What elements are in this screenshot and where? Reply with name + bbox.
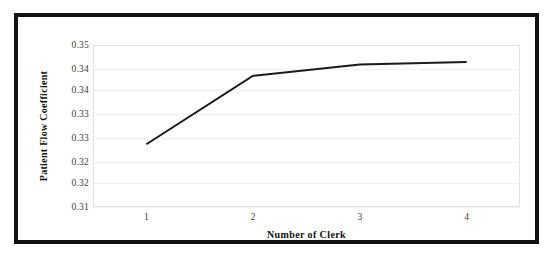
line-chart: Patient Flow Coefficient 0.350.340.340.3…	[21, 20, 540, 245]
y-axis-tick-labels: 0.350.340.340.330.330.320.320.31	[51, 45, 89, 207]
y-axis-tick-label: 0.33	[51, 133, 89, 143]
x-axis-title: Number of Clerk	[93, 229, 520, 240]
y-axis-title: Patient Flow Coefficient	[38, 71, 49, 182]
y-axis-tick-label: 0.31	[51, 202, 89, 212]
y-axis-title-container: Patient Flow Coefficient	[35, 45, 51, 207]
data-line-svg	[93, 45, 520, 207]
x-axis-tick-label: 4	[452, 212, 482, 222]
series-line-patient-flow-coefficient	[146, 62, 466, 144]
y-axis-tick-label: 0.34	[51, 85, 89, 95]
figure-inner-canvas: Patient Flow Coefficient 0.350.340.340.3…	[21, 20, 532, 237]
x-axis-tick-label: 2	[238, 212, 268, 222]
x-axis-tick-labels: 1234	[93, 212, 520, 228]
figure-root: Patient Flow Coefficient 0.350.340.340.3…	[0, 0, 553, 264]
y-axis-tick-label: 0.33	[51, 109, 89, 119]
x-axis-tick-label: 1	[131, 212, 161, 222]
y-axis-tick-label: 0.34	[51, 64, 89, 74]
y-axis-tick-label: 0.35	[51, 40, 89, 50]
plot-area	[93, 45, 520, 207]
x-axis-tick-label: 3	[345, 212, 375, 222]
figure-outer-border: Patient Flow Coefficient 0.350.340.340.3…	[14, 13, 539, 244]
gridline	[93, 207, 520, 208]
y-axis-tick-label: 0.32	[51, 178, 89, 188]
y-axis-tick-label: 0.32	[51, 157, 89, 167]
